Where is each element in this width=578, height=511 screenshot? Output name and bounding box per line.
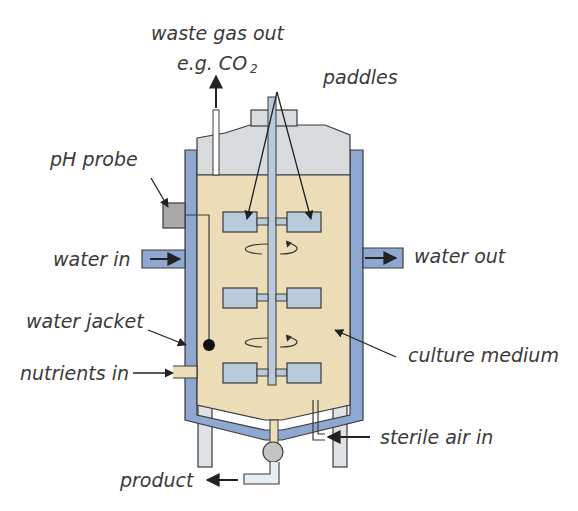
label-waste-gas-out: waste gas out <box>151 22 286 44</box>
fermenter-diagram: waste gas out e.g. CO 2 paddles pH probe… <box>0 0 578 511</box>
ph-probe <box>163 203 185 228</box>
label-water-in: water in <box>53 248 131 270</box>
product-pipe <box>244 462 279 484</box>
product-valve <box>263 442 283 462</box>
nutrients-in-pipe <box>173 366 197 378</box>
label-sterile-air-in: sterile air in <box>380 426 493 448</box>
label-water-jacket: water jacket <box>26 310 145 332</box>
label-product: product <box>119 469 195 491</box>
label-ph-probe: pH probe <box>49 148 138 170</box>
label-eg-co2: e.g. CO <box>177 52 247 74</box>
ph-probe-sensor <box>203 339 215 351</box>
label-paddles: paddles <box>322 66 398 88</box>
label-co2-subscript: 2 <box>250 62 258 76</box>
stirrer-shaft <box>268 97 276 385</box>
label-nutrients-in: nutrients in <box>20 362 129 384</box>
product-outlet-pipe <box>270 420 278 444</box>
label-culture-medium: culture medium <box>408 344 559 366</box>
waste-gas-pipe <box>213 110 219 175</box>
label-water-out: water out <box>414 245 507 267</box>
